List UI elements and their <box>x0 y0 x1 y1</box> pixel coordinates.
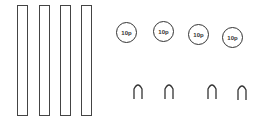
strip-1 <box>17 5 28 116</box>
coin-10p-2: 10p <box>153 21 174 42</box>
arch-icon <box>236 83 248 101</box>
strip-4 <box>81 5 92 116</box>
coin-10p-4: 10p <box>222 27 243 48</box>
strip-2 <box>39 5 50 116</box>
coin-label: 10p <box>158 29 168 35</box>
coin-10p-3: 10p <box>188 24 209 45</box>
arch-icon <box>132 82 144 100</box>
coin-label: 10p <box>227 35 237 41</box>
coin-label: 10p <box>193 32 203 38</box>
arch-icon <box>206 82 218 100</box>
arch-icon <box>163 82 175 100</box>
coin-10p-1: 10p <box>116 22 137 43</box>
strip-3 <box>60 5 71 116</box>
coin-label: 10p <box>121 30 131 36</box>
